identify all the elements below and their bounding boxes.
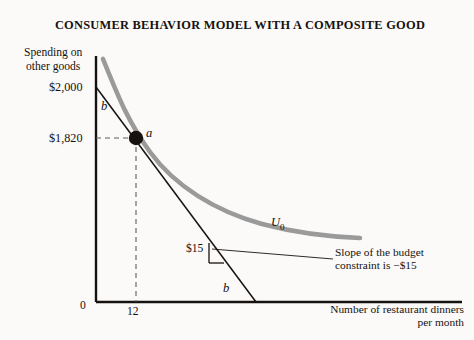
origin-label: 0 [80, 299, 86, 313]
y-tick-label-1820: $1,820 [49, 131, 83, 145]
point-a-marker [129, 131, 143, 145]
y-axis-label: Spending on other goods [24, 46, 82, 73]
indifference-curve-label: U0 [271, 215, 285, 232]
x-axis-label-line1: Number of restaurant dinners [296, 303, 464, 316]
budget-line-label-upper: b [101, 99, 107, 114]
figure-panel: CONSUMER BEHAVIOR MODEL WITH A COMPOSITE… [0, 0, 474, 340]
x-axis-label: Number of restaurant dinners per month [296, 303, 464, 330]
price-label: $15 [186, 242, 203, 256]
y-axis-label-line2: other goods [24, 60, 82, 74]
slope-annotation: Slope of the budget constraint is −$15 [335, 246, 424, 273]
y-tick-label-2000: $2,000 [49, 80, 83, 94]
slope-annotation-line2: constraint is −$15 [335, 259, 424, 272]
budget-line-label-lower: b [223, 281, 229, 296]
x-tick-label-12: 12 [127, 305, 139, 319]
indifference-curve-subscript: 0 [280, 222, 285, 232]
x-axis-label-line2: per month [296, 316, 464, 329]
budget-constraint-line [96, 87, 256, 302]
point-a-label: a [146, 126, 152, 141]
indifference-curve-letter: U [271, 215, 280, 229]
slope-note-leader-line [212, 249, 333, 259]
slope-annotation-line1: Slope of the budget [335, 246, 424, 259]
y-axis-label-line1: Spending on [24, 46, 82, 60]
